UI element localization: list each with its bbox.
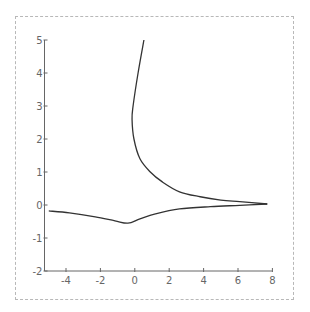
y-tick-label: -2	[33, 266, 43, 277]
y-tick-label: -1	[33, 233, 43, 244]
axes: -2-1012345-4-202468	[33, 35, 276, 286]
plot-area: -2-1012345-4-202468	[0, 0, 310, 312]
x-tick-label: 0	[132, 275, 138, 286]
y-tick-label: 2	[36, 134, 42, 145]
x-tick-label: -2	[95, 275, 105, 286]
x-tick-label: 6	[235, 275, 241, 286]
y-tick-label: 5	[36, 35, 42, 46]
y-tick-label: 3	[36, 101, 42, 112]
x-tick-label: 8	[269, 275, 275, 286]
curve-lower-branch	[49, 204, 267, 223]
x-tick-label: 4	[200, 275, 206, 286]
x-tick-label: 2	[166, 275, 172, 286]
y-tick-label: 4	[36, 68, 42, 79]
y-tick-label: 0	[36, 200, 42, 211]
x-tick-label: -4	[61, 275, 71, 286]
curves	[49, 40, 267, 223]
y-tick-label: 1	[36, 167, 42, 178]
curve-upper-branch	[132, 40, 267, 204]
